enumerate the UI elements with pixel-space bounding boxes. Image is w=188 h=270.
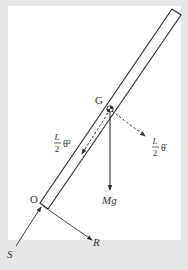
label-tangential: L 2 θ̈	[151, 136, 167, 158]
force-r-arrow	[43, 206, 92, 240]
label-mg: Mg	[101, 194, 117, 206]
label-o: O	[30, 193, 38, 205]
label-centripetal: L 2 θ̇²	[53, 132, 70, 154]
tangential-symbol: θ̈	[161, 142, 168, 153]
label-g: G	[95, 94, 103, 106]
tangential-denominator: 2	[153, 148, 158, 158]
tangential-acceleration-arrow	[112, 111, 145, 136]
centripetal-denominator: 2	[55, 144, 60, 154]
label-r: R	[92, 236, 100, 248]
centripetal-numerator: L	[53, 132, 59, 142]
rod-diagram: G O Mg S R L 2 θ̇² L 2 θ̈	[0, 0, 188, 270]
centripetal-symbol: θ̇²	[63, 138, 71, 149]
force-s-arrow	[16, 207, 41, 246]
tangential-numerator: L	[151, 136, 157, 146]
label-s: S	[7, 248, 13, 260]
